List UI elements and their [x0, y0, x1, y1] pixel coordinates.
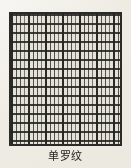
paper-grain-texture: [11, 14, 120, 144]
scanned-page-background: 单罗纹: [0, 0, 131, 168]
figure-caption: 单罗纹: [0, 150, 131, 164]
weave-structure-figure: [9, 12, 122, 146]
